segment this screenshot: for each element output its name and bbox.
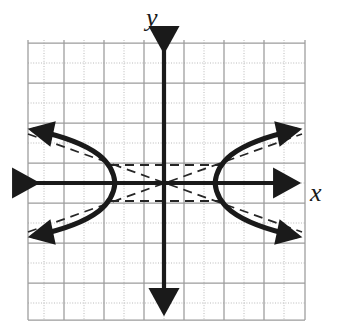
hyperbola-left-lower [34, 183, 115, 236]
axes-layer [36, 50, 297, 312]
grid-major-vertical [28, 40, 305, 320]
hyperbola-figure: y x [0, 0, 341, 330]
y-axis-label: y [146, 5, 158, 31]
graph-canvas [0, 0, 341, 330]
hyperbola-left-upper [34, 130, 115, 183]
hyperbola-right-upper [215, 130, 296, 183]
x-axis-label: x [310, 180, 322, 206]
grid-layer [28, 40, 305, 320]
